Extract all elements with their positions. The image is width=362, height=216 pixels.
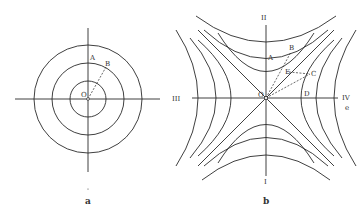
diagram-canvas: O A B a II I III IV e O: [0, 0, 362, 216]
label-b-a: B: [105, 60, 110, 68]
label-c-b: C: [311, 70, 316, 78]
label-iv: IV: [342, 94, 351, 102]
label-b-b: B: [289, 44, 294, 52]
caption-b: b: [263, 196, 269, 206]
label-ii: II: [261, 14, 267, 22]
origin-marker: [87, 98, 90, 101]
label-o-a: O: [81, 91, 87, 99]
panel-a: [15, 28, 160, 190]
origin-marker-b: [264, 96, 267, 99]
caption-a: a: [85, 196, 91, 206]
label-o-b: O: [258, 91, 264, 99]
label-e-b: E: [285, 68, 290, 76]
label-d-b: D: [304, 90, 310, 98]
radius-dashed-ob: [88, 67, 106, 99]
label-a-b: A: [267, 54, 274, 62]
panel-b: [176, 16, 356, 180]
label-a-a: A: [89, 54, 96, 62]
caption-dot: [87, 188, 88, 189]
label-i: I: [264, 178, 267, 186]
label-e-sub: e: [345, 104, 349, 112]
label-iii: III: [172, 95, 181, 103]
